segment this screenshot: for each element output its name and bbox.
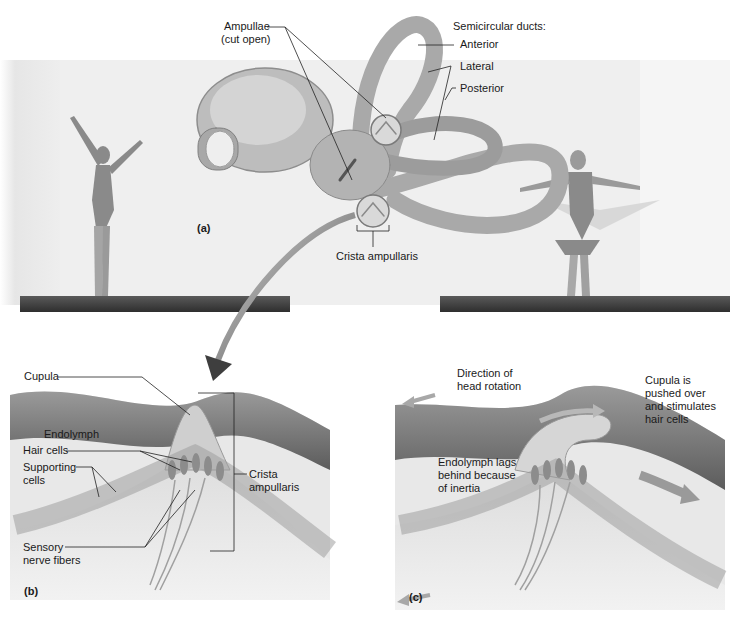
label-lateral: Lateral: [460, 60, 494, 73]
crista-section-b: [10, 392, 330, 600]
label-crista: Crista: [249, 468, 278, 481]
label-cupula: Cupula: [24, 370, 59, 383]
panel-tag-c: (c): [409, 591, 422, 603]
panel-tag-a: (a): [197, 222, 210, 234]
panel-tag-b: (b): [24, 585, 38, 597]
label-hair-cells: Hair cells: [23, 444, 68, 457]
balance-beam-right: [440, 296, 730, 312]
label-head-rotation: head rotation: [457, 380, 521, 393]
figure-artwork: [0, 0, 730, 631]
label-sensory: Sensory: [23, 541, 63, 554]
label-nerve-fibers: nerve fibers: [23, 554, 80, 567]
label-supporting-cells: cells: [23, 474, 45, 487]
label-ampullae: Ampullae: [224, 20, 270, 33]
label-semicircular-ducts: Semicircular ducts:: [453, 20, 546, 33]
label-supporting: Supporting: [23, 461, 76, 474]
label-direction-of: Direction of: [457, 367, 513, 380]
label-pushed-over: pushed over: [645, 387, 706, 400]
label-ampullae-cut-open: (cut open): [221, 33, 271, 46]
label-anterior: Anterior: [460, 38, 499, 51]
label-hair-cells-c: hair cells: [645, 413, 688, 426]
label-posterior: Posterior: [460, 82, 504, 95]
label-and-stimulates: and stimulates: [645, 400, 716, 413]
label-endolymph: Endolymph: [44, 428, 99, 441]
label-endolymph-lags: Endolymph lags: [438, 456, 516, 469]
label-behind-because: behind because: [438, 469, 516, 482]
label-crista-ampullaris-a: Crista ampullaris: [336, 250, 418, 263]
label-ampullaris: ampullaris: [249, 481, 299, 494]
label-of-inertia: of inertia: [438, 482, 480, 495]
label-cupula-is: Cupula is: [645, 374, 691, 387]
